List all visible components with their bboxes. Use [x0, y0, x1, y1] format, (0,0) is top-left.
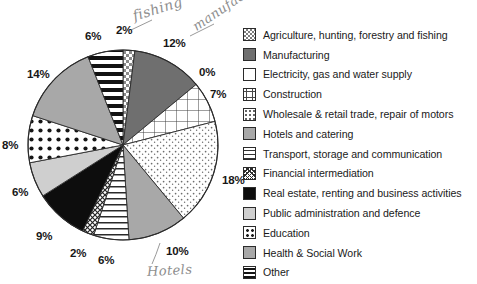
slice-percentage-label: 6% [12, 186, 28, 198]
handwritten-note-hotels: Hotels [147, 262, 193, 279]
slice-percentage-label: 8% [2, 139, 18, 151]
legend-swatch-icon [243, 88, 256, 101]
legend-item-label: Construction [263, 88, 322, 100]
slice-percentage-label: 12% [163, 37, 185, 49]
legend-swatch-icon [243, 187, 256, 200]
slice-percentage-label: 9% [36, 230, 52, 242]
chart-legend: Agriculture, hunting, forestry and fishi… [243, 25, 477, 282]
legend-item-label: Real estate, renting and business activi… [263, 187, 462, 199]
legend-item-label: Health & Social Work [263, 247, 362, 259]
legend-swatch-icon [243, 108, 256, 121]
legend-item-label: Wholesale & retail trade, repair of moto… [263, 108, 453, 120]
legend-item[interactable]: Hotels and catering [243, 124, 477, 144]
legend-item[interactable]: Financial intermediation [243, 164, 477, 184]
legend-item-label: Manufacturing [263, 49, 329, 61]
legend-item[interactable]: Transport, storage and communication [243, 144, 477, 164]
legend-item[interactable]: Agriculture, hunting, forestry and fishi… [243, 25, 477, 45]
legend-item-label: Other [263, 266, 289, 278]
slice-percentage-label: 18% [222, 174, 244, 186]
legend-item[interactable]: Health & Social Work [243, 243, 477, 263]
legend-item[interactable]: Construction [243, 84, 477, 104]
slice-percentage-label: 7% [210, 88, 226, 100]
slice-percentage-label: 2% [70, 247, 86, 259]
slice-percentage-label: 2% [116, 24, 132, 36]
legend-swatch-icon [243, 147, 256, 160]
legend-item[interactable]: Public administration and defence [243, 203, 477, 223]
legend-item-label: Public administration and defence [263, 207, 420, 219]
slice-percentage-label: 6% [98, 254, 114, 266]
legend-item-label: Transport, storage and communication [263, 148, 442, 160]
legend-swatch-icon [243, 28, 256, 41]
legend-swatch-icon [243, 207, 256, 220]
slice-percentage-label: 6% [85, 30, 101, 42]
leader-line-hotels [152, 243, 160, 264]
legend-item[interactable]: Wholesale & retail trade, repair of moto… [243, 104, 477, 124]
slice-percentage-label: 14% [27, 68, 49, 80]
slice-percentage-label: 10% [166, 245, 188, 257]
legend-item-label: Electricity, gas and water supply [263, 68, 412, 80]
legend-item[interactable]: Manufacturing [243, 45, 477, 65]
legend-item-label: Education [263, 227, 310, 239]
legend-item[interactable]: Education [243, 223, 477, 243]
legend-swatch-icon [243, 246, 256, 259]
pie-slices [28, 50, 218, 240]
pie-chart-figure: 2%12%0%7%18%10%6%2%9%6%8%14%6% fishing m… [0, 0, 477, 284]
legend-item[interactable]: Other [243, 263, 477, 283]
pie-plot-area: 2%12%0%7%18%10%6%2%9%6%8%14%6% fishing m… [0, 0, 250, 284]
legend-item[interactable]: Electricity, gas and water supply [243, 65, 477, 85]
legend-item-label: Agriculture, hunting, forestry and fishi… [263, 29, 448, 41]
legend-swatch-icon [243, 167, 256, 180]
legend-swatch-icon [243, 266, 256, 279]
legend-swatch-icon [243, 127, 256, 140]
legend-item-label: Financial intermediation [263, 167, 374, 179]
legend-swatch-icon [243, 48, 256, 61]
legend-item-label: Hotels and catering [263, 128, 353, 140]
legend-swatch-icon [243, 68, 256, 81]
legend-swatch-icon [243, 226, 256, 239]
legend-item[interactable]: Real estate, renting and business activi… [243, 183, 477, 203]
slice-percentage-label: 0% [199, 66, 215, 78]
